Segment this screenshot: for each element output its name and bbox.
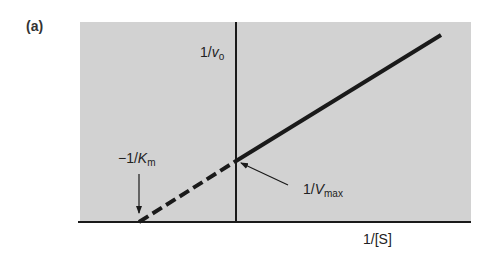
x-intercept-label: −1/Km (118, 150, 156, 168)
lineweaver-burk-plot (0, 0, 491, 264)
x-axis-label: 1/[S] (363, 231, 392, 247)
y-intercept-label: 1/Vmax (303, 181, 343, 199)
y-axis-label: 1/vo (200, 44, 224, 62)
